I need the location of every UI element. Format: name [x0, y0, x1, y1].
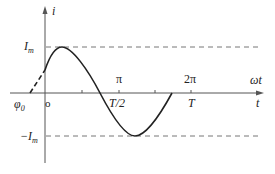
max-level-label: Im: [24, 40, 34, 55]
origin-label: o: [45, 98, 51, 109]
vertical-axis-arrow-icon: [43, 6, 48, 14]
phase-label: φ0: [14, 98, 25, 113]
waveform-diagram: [0, 0, 275, 174]
curve-dashed-segment: [30, 70, 45, 93]
sinusoid-curve: [45, 47, 172, 136]
vertical-axis-label: i: [52, 5, 55, 17]
min-level-label: −Im: [20, 130, 38, 145]
angle-axis-label: ωt: [250, 74, 262, 86]
tick-label-two-pi: 2π: [184, 73, 196, 85]
horizontal-axis-arrow-icon: [256, 91, 264, 96]
tick-label-half-period: T/2: [109, 97, 125, 109]
tick-label-period: T: [188, 97, 195, 109]
tick-label-pi: π: [116, 73, 122, 85]
time-axis-label: t: [256, 97, 259, 109]
